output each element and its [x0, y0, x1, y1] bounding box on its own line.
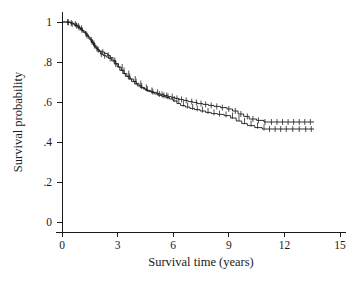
- y-axis-title: Survival probability: [11, 71, 25, 172]
- x-axis-title: Survival time (years): [148, 255, 254, 269]
- y-tick-label: .2: [43, 176, 52, 188]
- kaplan-meier-plot: 0.2.4.6.81 03691215 Survival time (years…: [0, 0, 360, 281]
- censoring-marks: [68, 19, 312, 132]
- x-tick-label: 6: [170, 239, 176, 251]
- survival-curves: [62, 22, 314, 129]
- x-tick-label: 9: [226, 239, 232, 251]
- y-tick-label: .6: [43, 96, 52, 108]
- y-axis-ticks: 0.2.4.6.81: [43, 16, 62, 228]
- y-tick-label: .8: [43, 56, 52, 68]
- y-tick-label: 0: [46, 216, 52, 228]
- x-tick-label: 0: [59, 239, 65, 251]
- y-tick-label: .4: [43, 136, 52, 148]
- x-tick-label: 12: [279, 239, 291, 251]
- x-axis-ticks: 03691215: [59, 232, 346, 251]
- x-tick-label: 15: [334, 239, 346, 251]
- survival-curve-figure: 0.2.4.6.81 03691215 Survival time (years…: [0, 0, 360, 281]
- x-tick-label: 3: [115, 239, 121, 251]
- survival-curve-2: [62, 22, 314, 129]
- y-tick-label: 1: [46, 16, 52, 28]
